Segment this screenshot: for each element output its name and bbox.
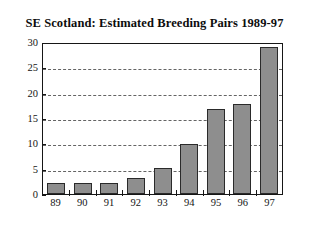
x-axis-tick-mark [256, 190, 257, 196]
bar[interactable] [233, 104, 251, 194]
x-axis-tick-label: 89 [40, 198, 70, 209]
y-axis-tick-mark [42, 195, 46, 196]
x-axis-tick-label: 94 [174, 198, 204, 209]
y-axis-tick-label: 10 [4, 139, 38, 150]
x-axis-tick-label: 97 [255, 198, 285, 209]
x-axis-tick-mark [122, 190, 123, 196]
plot-area [42, 43, 283, 195]
x-axis-tick-label: 91 [94, 198, 124, 209]
bar-slot [43, 44, 70, 194]
bar[interactable] [154, 168, 172, 195]
y-axis-tick-mark [42, 94, 46, 95]
x-axis-tick-label: 95 [201, 198, 231, 209]
y-axis-tick-mark [42, 170, 46, 171]
bar[interactable] [100, 183, 118, 194]
bar-slot [229, 44, 256, 194]
y-axis-tick-mark [42, 68, 46, 69]
bar-slot [176, 44, 203, 194]
x-axis-tick-mark [96, 190, 97, 196]
x-axis-tick-mark [229, 190, 230, 196]
bar-slot [96, 44, 123, 194]
bar[interactable] [180, 144, 198, 194]
x-axis-tick-label: 92 [121, 198, 151, 209]
x-axis-tick-mark [149, 190, 150, 196]
x-axis-tick-mark [176, 190, 177, 196]
y-axis-tick-label: 30 [4, 38, 38, 49]
chart-title: SE Scotland: Estimated Breeding Pairs 19… [0, 16, 309, 31]
y-axis-tick-mark [42, 43, 46, 44]
x-axis-tick-label: 90 [67, 198, 97, 209]
y-axis-tick-mark [42, 144, 46, 145]
bar-slot [149, 44, 176, 194]
bar[interactable] [207, 109, 225, 194]
x-axis-tick-label: 96 [228, 198, 258, 209]
bar-slot [202, 44, 229, 194]
bars-container [43, 44, 282, 194]
y-axis-tick-label: 25 [4, 63, 38, 74]
y-axis-tick-label: 0 [4, 190, 38, 201]
y-axis-tick-mark [42, 119, 46, 120]
y-axis-tick-label: 5 [4, 165, 38, 176]
bar[interactable] [127, 178, 145, 195]
bar[interactable] [260, 47, 278, 195]
bar-chart-figure: SE Scotland: Estimated Breeding Pairs 19… [0, 0, 309, 230]
x-axis-tick-label: 93 [148, 198, 178, 209]
bar-slot [256, 44, 283, 194]
bar-slot [123, 44, 150, 194]
y-axis-tick-label: 20 [4, 89, 38, 100]
x-axis-tick-mark [69, 190, 70, 196]
bar[interactable] [74, 183, 92, 194]
bar[interactable] [47, 183, 65, 194]
x-axis-tick-mark [203, 190, 204, 196]
y-axis-tick-label: 15 [4, 114, 38, 125]
bar-slot [70, 44, 97, 194]
